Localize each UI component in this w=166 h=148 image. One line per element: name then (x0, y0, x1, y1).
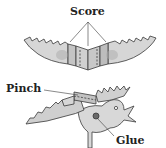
glue-dot (93, 113, 99, 119)
center-panel-left (68, 44, 76, 66)
center-panel-midleft (76, 46, 88, 70)
front-wing (26, 98, 84, 124)
wing-strip-figure (24, 36, 156, 70)
score-label: Score (70, 5, 105, 18)
diagram-artwork (0, 0, 166, 148)
pinch-label: Pinch (6, 82, 41, 95)
bird-eye (114, 106, 117, 109)
center-panel-midright (88, 46, 100, 70)
score-leader-lines (70, 22, 106, 46)
right-wing (108, 36, 156, 64)
wing-tab-left (62, 96, 74, 106)
glue-label: Glue (116, 134, 145, 147)
craft-diagram: Score Pinch Glue (0, 0, 166, 148)
pinch-leader-line (44, 90, 78, 95)
